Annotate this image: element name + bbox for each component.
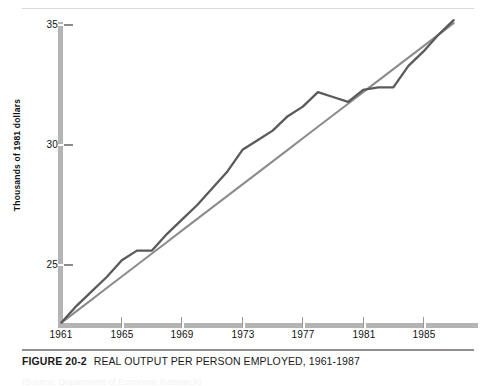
series-layer (0, 0, 482, 345)
source-note: (Source: Department of Economic Research… (22, 377, 474, 386)
figure-number: FIGURE 20-2 (22, 355, 87, 367)
trend-line (62, 23, 454, 323)
caption-divider-rule (22, 349, 474, 351)
chart-plot-area: Thousands of 1981 dollars 35 30 25 1961 … (0, 0, 482, 345)
figure-caption: FIGURE 20-2REAL OUTPUT PER PERSON EMPLOY… (22, 355, 474, 367)
figure-title: REAL OUTPUT PER PERSON EMPLOYED, 1961-19… (94, 355, 360, 367)
figure-container: Thousands of 1981 dollars 35 30 25 1961 … (0, 0, 482, 386)
